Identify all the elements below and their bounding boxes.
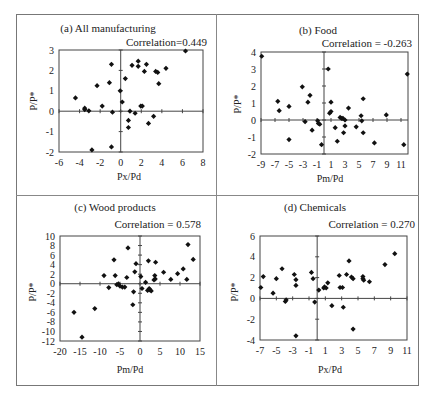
data-point-diamond bbox=[118, 88, 123, 93]
y-tick-label: 4 bbox=[250, 251, 255, 262]
data-point-diamond bbox=[279, 266, 284, 271]
data-point-diamond bbox=[344, 272, 349, 277]
data-point-diamond bbox=[125, 245, 130, 250]
data-point-diamond bbox=[342, 123, 347, 128]
data-point-diamond bbox=[168, 277, 173, 282]
x-tick-label: 0 bbox=[118, 157, 123, 168]
data-point-diamond bbox=[136, 64, 141, 69]
data-point-diamond bbox=[126, 118, 131, 123]
data-point-diamond bbox=[109, 144, 114, 149]
y-tick-label: 6 bbox=[250, 231, 255, 242]
y-tick-label: 10 bbox=[45, 231, 55, 242]
data-point-diamond bbox=[183, 48, 188, 53]
data-point-diamond bbox=[151, 114, 156, 119]
data-point-diamond bbox=[111, 257, 116, 262]
data-point-diamond bbox=[261, 274, 266, 279]
x-tick-label: 11 bbox=[402, 345, 412, 356]
data-point-diamond bbox=[146, 121, 151, 126]
x-tick-label: -9 bbox=[257, 159, 265, 170]
x-tick-label: -6 bbox=[55, 157, 63, 168]
data-point-diamond bbox=[401, 142, 406, 147]
data-point-diamond bbox=[328, 100, 333, 105]
y-tick-label: -2 bbox=[247, 314, 255, 325]
data-point-diamond bbox=[138, 274, 143, 279]
x-axis-label: Px/Pd bbox=[117, 171, 141, 182]
y-tick-label: 2 bbox=[250, 272, 255, 283]
data-point-diamond bbox=[185, 242, 190, 247]
data-point-diamond bbox=[359, 118, 364, 123]
x-axis-label: Pm/Pd bbox=[317, 173, 344, 184]
x-tick-label: 7 bbox=[371, 159, 376, 170]
data-point-diamond bbox=[310, 276, 315, 281]
data-point-diamond bbox=[106, 285, 111, 290]
y-tick-label: 3 bbox=[49, 45, 54, 56]
x-tick-label: -5 bbox=[272, 345, 280, 356]
x-tick-label: -5 bbox=[285, 159, 293, 170]
y-tick-label: -2 bbox=[248, 149, 256, 160]
data-point-diamond bbox=[132, 269, 137, 274]
data-point-diamond bbox=[286, 137, 291, 142]
data-point-diamond bbox=[110, 110, 115, 115]
x-tick-label: 5 bbox=[356, 345, 361, 356]
x-tick-label: 7 bbox=[372, 345, 377, 356]
y-tick-label: 4 bbox=[251, 47, 256, 58]
data-point-diamond bbox=[79, 335, 84, 340]
x-axis-label: Pm/Pd bbox=[117, 364, 144, 375]
y-tick-label: 2 bbox=[251, 81, 256, 92]
y-tick-label: -1 bbox=[248, 132, 256, 143]
data-point-diamond bbox=[372, 140, 377, 145]
x-tick-label: -15 bbox=[73, 346, 86, 357]
data-point-diamond bbox=[277, 108, 282, 113]
plot-area: -7-5-3-11357911-4-20246 bbox=[247, 231, 412, 357]
data-point-diamond bbox=[92, 306, 97, 311]
correlation-label: Correlation = 0.578 bbox=[114, 218, 201, 230]
data-point-diamond bbox=[341, 305, 346, 310]
data-point-diamond bbox=[351, 326, 356, 331]
data-point-diamond bbox=[384, 112, 389, 117]
x-tick-label: -7 bbox=[271, 159, 279, 170]
data-point-diamond bbox=[307, 93, 312, 98]
x-tick-label: 6 bbox=[180, 157, 185, 168]
x-tick-label: 2 bbox=[139, 157, 144, 168]
data-point-diamond bbox=[270, 291, 275, 296]
panel-title: (a) All manufacturing bbox=[60, 22, 156, 35]
data-point-diamond bbox=[163, 66, 168, 71]
x-tick-label: 1 bbox=[323, 345, 328, 356]
y-tick-label: -10 bbox=[42, 326, 55, 337]
y-tick-label: 0 bbox=[50, 278, 55, 289]
x-tick-label: -7 bbox=[256, 345, 264, 356]
x-tick-label: 0 bbox=[138, 346, 143, 357]
data-point-diamond bbox=[109, 62, 114, 67]
y-tick-label: 0 bbox=[250, 293, 255, 304]
data-point-diamond bbox=[130, 302, 135, 307]
data-point-diamond bbox=[405, 72, 410, 77]
data-point-diamond bbox=[300, 84, 305, 89]
scatter-panel-wood-products: (c) Wood products Correlation = 0.578 Pm… bbox=[0, 196, 215, 386]
data-point-diamond bbox=[153, 260, 158, 265]
data-point-diamond bbox=[184, 277, 189, 282]
scatter-panel-all-manufacturing: (a) All manufacturing Correlation=0.449 … bbox=[0, 0, 215, 195]
x-tick-label: -10 bbox=[93, 346, 106, 357]
plot-frame bbox=[260, 236, 407, 340]
x-tick-label: 1 bbox=[329, 159, 334, 170]
x-tick-label: -2 bbox=[96, 157, 104, 168]
data-point-diamond bbox=[312, 299, 317, 304]
data-point-diamond bbox=[319, 142, 324, 147]
data-point-diamond bbox=[361, 130, 366, 135]
data-point-diamond bbox=[142, 69, 147, 74]
data-point-diamond bbox=[136, 59, 141, 64]
y-tick-label: 0 bbox=[49, 106, 54, 117]
data-point-diamond bbox=[161, 270, 166, 275]
scatter-panel-food: (b) Food Correlation = -0.263 Pm/Pd P/P*… bbox=[216, 0, 431, 195]
data-point-diamond bbox=[86, 108, 91, 113]
data-point-diamond bbox=[123, 76, 128, 81]
y-tick-label: -8 bbox=[47, 316, 55, 327]
data-point-diamond bbox=[310, 128, 315, 133]
y-tick-label: -4 bbox=[47, 297, 55, 308]
data-point-diamond bbox=[382, 262, 387, 267]
data-point-diamond bbox=[129, 63, 134, 68]
data-point-diamond bbox=[275, 99, 280, 104]
data-point-diamond bbox=[191, 257, 196, 262]
data-point-diamond bbox=[367, 279, 372, 284]
x-tick-label: 5 bbox=[158, 346, 163, 357]
